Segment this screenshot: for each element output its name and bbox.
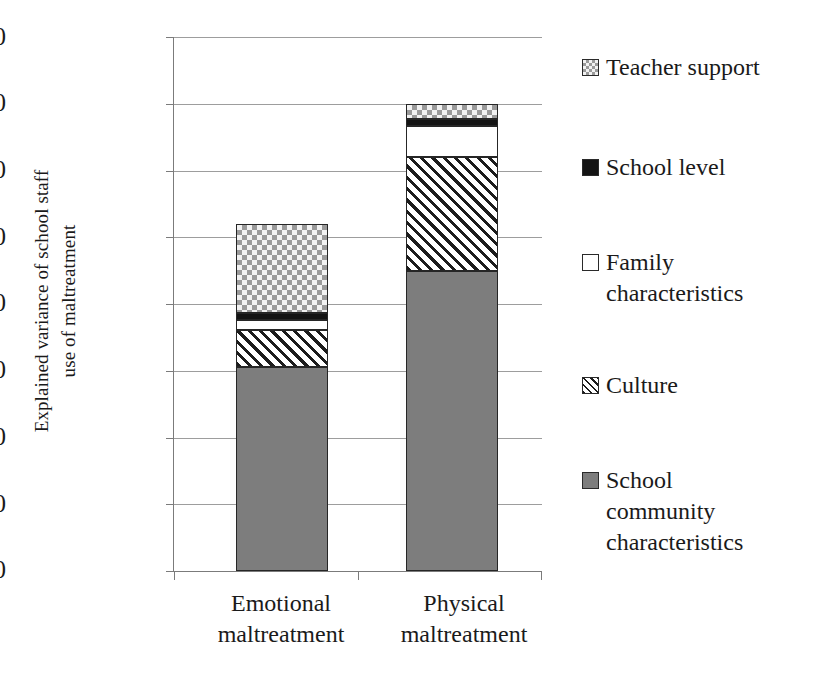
x-axis-label-physical-maltreatment: Physical maltreatment [359,588,569,650]
y-tick-label-20: 20 [0,424,6,449]
legend-label: Family characteristics [606,247,743,309]
y-tickmark-0 [166,571,174,572]
legend-label: Culture [606,370,678,401]
x-axis-label-emotional-maltreatment: Emotional maltreatment [176,588,386,650]
y-tick-label-10: 10 [0,491,6,516]
y-axis-title-line-2: use of maltreatment [55,225,82,378]
legend-label: School community characteristics [606,465,743,558]
bar-segment-family-characteristics[interactable] [236,320,328,330]
legend-item-family-characteristics[interactable]: Family characteristics [582,247,743,309]
y-tickmark-60 [166,171,174,172]
y-axis-title-line-1: Explained variance of school staff [28,170,55,433]
y-tick-label-40: 40 [0,290,6,315]
legend-item-teacher-support[interactable]: Teacher support [582,52,760,83]
bar-segment-school-level[interactable] [236,313,328,320]
y-tickmark-50 [166,237,174,238]
bar-segment-family-characteristics[interactable] [406,126,498,157]
y-tickmark-70 [166,104,174,105]
solid-gray-swatch-icon [582,472,599,489]
x-tickmark-left [174,571,175,580]
solid-black-swatch-icon [582,159,599,176]
y-tickmark-40 [166,304,174,305]
bar-segment-school-level[interactable] [406,119,498,126]
legend-item-school-level[interactable]: School level [582,152,725,183]
bar-segment-teacher-support[interactable] [406,104,498,119]
bar-physical-maltreatment[interactable] [406,104,498,571]
y-tickmark-20 [166,438,174,439]
x-tickmark-middle [358,571,359,580]
diagonal-hatch-swatch-icon [582,377,599,394]
x-tickmark-right [541,571,542,580]
y-tickmark-80 [166,37,174,38]
y-tick-label-70: 70 [0,90,6,115]
y-axis-title: Explained variance of school staff use o… [0,0,110,600]
y-tickmark-10 [166,504,174,505]
stacked-bar-chart: Explained variance of school staff use o… [0,0,819,685]
bar-segment-culture[interactable] [236,330,328,367]
bar-emotional-maltreatment[interactable] [236,224,328,571]
y-tick-label-80: 80 [0,24,6,49]
legend-label: School level [606,152,725,183]
legend-item-culture[interactable]: Culture [582,370,678,401]
plot-area [173,37,542,572]
y-tickmark-30 [166,371,174,372]
y-tick-label-30: 30 [0,357,6,382]
y-tick-label-50: 50 [0,224,6,249]
y-tick-label-60: 60 [0,157,6,182]
checkerboard-swatch-icon [582,59,599,76]
legend-label: Teacher support [606,52,760,83]
bar-segment-culture[interactable] [406,157,498,271]
bar-segment-school-community-characteristics[interactable] [236,367,328,571]
y-tick-label-0: 0 [0,557,6,582]
gridline-80 [174,37,542,38]
legend-item-school-community-characteristics[interactable]: School community characteristics [582,465,743,558]
empty-white-swatch-icon [582,254,599,271]
bar-segment-school-community-characteristics[interactable] [406,271,498,571]
bar-segment-teacher-support[interactable] [236,224,328,313]
